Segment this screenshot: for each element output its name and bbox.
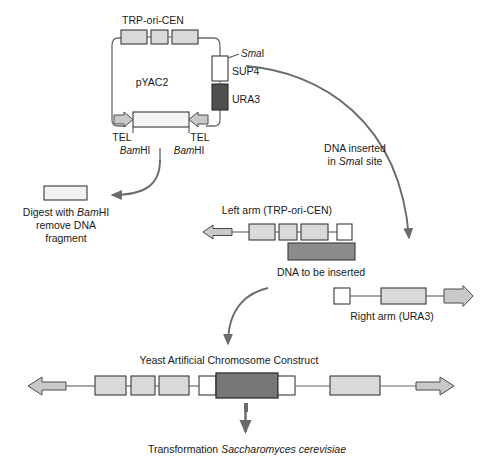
right-arm-segment-ura3	[381, 288, 426, 304]
right-arm-segment-site	[334, 288, 350, 304]
construct-title: Yeast Artificial Chromosome Construct	[140, 354, 319, 366]
transformation-pre: Transformation	[148, 443, 221, 455]
construct-segment-ars1	[131, 376, 155, 395]
construct-segment-trp1	[95, 376, 126, 395]
bamhi-right-italic: Bam	[174, 145, 195, 156]
excised-dna-fragment-box	[44, 186, 87, 200]
plasmid-sup4-box	[212, 56, 228, 81]
right-arm-telomere-arrow	[444, 286, 473, 307]
insert-dna-group: DNA to be inserted	[277, 243, 365, 278]
bamhi-left-label: BamHI	[120, 145, 151, 156]
construct-telomere-right-arrow	[416, 377, 454, 395]
left-arm-telomere-arrow	[203, 225, 232, 239]
left-arm-segment-site	[337, 224, 352, 240]
insert-caption-italic: Sma	[339, 155, 361, 167]
left-arm-segment-trp1	[249, 224, 275, 240]
insert-dna-box	[288, 243, 355, 260]
bamhi-left-italic: Bam	[120, 145, 141, 156]
plasmid-segment-ars1	[151, 30, 168, 44]
plasmid-top-label: TRP-ori-CEN	[122, 14, 184, 26]
digest-caption-post: HI	[99, 206, 110, 218]
plasmid-segment-cen4	[172, 30, 198, 44]
excised-fragment-group: Digest with BamHI remove DNA fragment	[23, 186, 109, 244]
yac-construction-diagram: TRP-ori-CEN SmaI SUP4 URA3 pYAC2 TEL TEL…	[0, 0, 497, 468]
construct-junction-left	[199, 376, 216, 395]
plasmid-segment-trp1	[121, 30, 147, 44]
insert-caption-post: I site	[360, 155, 382, 167]
smai-label-italic: Sma	[241, 48, 262, 59]
diagram-canvas: TRP-ori-CEN SmaI SUP4 URA3 pYAC2 TEL TEL…	[0, 0, 497, 468]
bamhi-right-label: BamHI	[174, 145, 205, 156]
digest-curve	[112, 160, 160, 195]
insert-caption-line1: DNA inserted	[324, 142, 386, 154]
right-arm-group: Right arm (URA3)	[334, 286, 473, 323]
construct-segment-cen4	[159, 376, 189, 395]
construct-junction-right	[278, 376, 295, 395]
right-arm-label: Right arm (URA3)	[350, 310, 433, 322]
digest-caption-pre: Digest with	[23, 206, 77, 218]
plasmid-tel-left-label: TEL	[112, 131, 131, 143]
smai-label: SmaI	[241, 48, 264, 59]
digest-caption-line1: Digest with BamHI	[23, 206, 109, 218]
digest-caption-italic: Bam	[77, 206, 99, 218]
transformation-caption: Transformation Saccharomyces cerevisiae	[148, 443, 346, 455]
plasmid-stuffer-fragment	[133, 112, 189, 127]
smai-pointer-line	[228, 54, 239, 58]
insert-dna-label: DNA to be inserted	[277, 266, 365, 278]
plasmid-pyac2: TRP-ori-CEN SmaI SUP4 URA3 pYAC2 TEL TEL…	[112, 14, 264, 156]
construct-segment-ura3	[330, 376, 380, 395]
left-arm-segment-cen4	[301, 224, 328, 240]
construct-inserted-dna	[216, 373, 278, 398]
ura3-label: URA3	[232, 93, 260, 105]
assembly-curve	[228, 288, 268, 344]
left-arm-label: Left arm (TRP-ori-CEN)	[222, 204, 332, 216]
assembly-flow-arrow	[228, 288, 268, 344]
plasmid-tel-right-label: TEL	[190, 131, 209, 143]
bamhi-right-rest: HI	[194, 145, 204, 156]
left-arm-group: Left arm (TRP-ori-CEN)	[203, 204, 352, 240]
transformation-species: Saccharomyces cerevisiae	[221, 443, 346, 455]
digest-caption-line3: fragment	[45, 232, 87, 244]
plasmid-tel-left-arrow	[114, 112, 133, 127]
insert-caption-line2: in SmaI site	[328, 155, 383, 167]
left-arm-segment-ars1	[279, 224, 297, 240]
insert-caption-pre: in	[328, 155, 339, 167]
smai-label-rest: I	[262, 48, 265, 59]
plasmid-tel-right-arrow	[189, 112, 208, 127]
plasmid-ura3-box	[212, 84, 228, 110]
yac-construct-group: Yeast Artificial Chromosome Construct	[28, 354, 454, 412]
plasmid-name-label: pYAC2	[136, 76, 169, 88]
construct-telomere-left-arrow	[28, 377, 66, 395]
transformation-group: Transformation Saccharomyces cerevisiae	[148, 410, 346, 455]
bamhi-left-rest: HI	[140, 145, 150, 156]
digest-caption-line2: remove DNA	[36, 219, 96, 231]
